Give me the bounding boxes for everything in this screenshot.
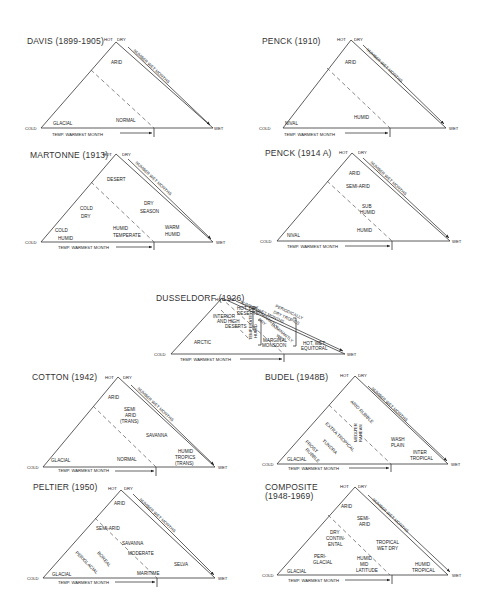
zone-label: SEMI <box>124 407 135 412</box>
label-cold: COLD <box>25 240 37 245</box>
zone-label: TROPICAL <box>410 456 433 461</box>
diagram-title: PENCK (1914 A) <box>265 148 332 158</box>
zone-label: WET DRY <box>377 546 398 551</box>
zone-label: SAVANNA <box>122 541 144 546</box>
x-axis-label: TEMP. WARMEST MONTH <box>58 580 109 585</box>
zone-label: INTER <box>413 450 427 455</box>
zone-label: ENTAL <box>328 542 343 547</box>
label-hot: HOT <box>339 150 348 155</box>
side-axis-label: NUMBER WET MONTHS <box>132 48 171 84</box>
zone-label: ARCTIC <box>194 340 212 345</box>
zone-label: LATITUDE <box>356 568 378 573</box>
label-wet: WET <box>347 352 357 357</box>
label-hot: HOT <box>340 373 349 378</box>
side-axis-label: NUMBER WET MONTHS <box>136 386 175 422</box>
side-axis-label: NUMBER WET MONTHS <box>134 160 173 196</box>
zone-label: ARID <box>111 60 123 65</box>
zone-label: ARID RUBBLE <box>349 399 374 424</box>
zone-label: ARID <box>108 395 120 400</box>
label-cold: COLD <box>27 576 39 581</box>
label-hot: HOT <box>108 486 117 491</box>
label-hot: HOT <box>103 152 112 157</box>
label-dry: DRY <box>228 297 237 302</box>
label-hot: HOT <box>340 484 349 489</box>
x-axis-label: TEMP. WARMEST MONTH <box>52 132 103 137</box>
label-cold: COLD <box>25 126 37 131</box>
zone-label: TROPICS <box>175 455 195 460</box>
label-wet: WET <box>449 126 459 131</box>
zone-label: DRY <box>330 530 340 535</box>
label-wet: WET <box>214 126 224 131</box>
arrow-icon <box>131 385 214 465</box>
x-axis-label: TEMP. WARMEST MONTH <box>284 132 335 137</box>
zone-label: SELVA <box>174 562 189 567</box>
diagram-martonne: MARTONNE (1913) HOT DRY COLD WET TEMP. W… <box>25 150 226 250</box>
label-dry: DRY <box>124 486 133 491</box>
diagram-title: COTTON (1942) <box>32 372 97 382</box>
diagram-dusseldorf: DUSSELDORF (1926) HOT DRY COLD WET TEMP.… <box>154 293 357 362</box>
zone-label: SAVANNA <box>146 433 168 438</box>
zone-label: DRY <box>81 214 91 219</box>
zone-label: WASH <box>391 437 405 442</box>
zone-label: COLD <box>55 228 68 233</box>
zone-label: SEMI- <box>357 516 370 521</box>
side-axis-label: NUMBER WET MONTHS <box>365 47 404 83</box>
label-dry: DRY <box>354 37 363 42</box>
zone-label: GLACIAL <box>51 458 71 463</box>
zone-label: RANEAN <box>358 425 363 442</box>
diagram-title: PENCK (1910) <box>262 36 321 46</box>
diagram-budel: BUDEL (1948B) HOT DRY COLD WET TEMP. WAR… <box>262 372 461 472</box>
zone-label: HUMID <box>58 236 74 241</box>
zone-label: HUMID <box>360 210 376 215</box>
zone-label: ARID <box>345 60 357 65</box>
label-dry: DRY <box>123 375 132 380</box>
diagram-subtitle: (1948-1969) <box>265 491 314 501</box>
zone-label: DESERTS <box>225 324 247 329</box>
diagram-title: PELTIER (1950) <box>33 482 98 492</box>
label-dry: DRY <box>358 150 367 155</box>
label-hot: HOT <box>215 297 224 302</box>
zone-label: MARITIME <box>137 571 159 576</box>
label-cold: COLD <box>154 352 166 357</box>
zone-label: PLAIN <box>391 443 404 448</box>
zone-label: MODERATE <box>128 551 154 556</box>
label-dry: DRY <box>358 373 367 378</box>
side-axis-label: NUMBER WET MONTHS <box>370 386 409 422</box>
zone-label: MONSOON <box>262 343 286 348</box>
zone-label: TROPICAL <box>376 540 399 545</box>
label-cold: COLD <box>262 573 274 578</box>
label-hot: HOT <box>337 37 346 42</box>
zone-label: GLACIAL <box>287 457 307 462</box>
label-wet: WET <box>452 239 462 244</box>
label-dry: DRY <box>117 37 126 42</box>
triangle-sides <box>41 42 213 128</box>
zone-label: DRY <box>144 201 154 206</box>
diagram-title: MARTONNE (1913) <box>30 150 108 160</box>
diagram-title: BUDEL (1948B) <box>265 372 328 382</box>
x-axis-label: TEMP. WARMEST MONTH <box>180 357 231 362</box>
x-axis-label: TEMP. WARMEST MONTH <box>58 245 109 250</box>
zone-label: (TRANS) <box>175 461 194 466</box>
zone-label: COLD <box>80 206 93 211</box>
zone-label: HUMID <box>415 562 431 567</box>
diagram-peltier: PELTIER (1950) HOT DRY COLD WET TEMP. WA… <box>27 482 228 587</box>
label-cold: COLD <box>27 465 39 470</box>
zone-label: SEMI-ARID <box>346 184 370 189</box>
diagram-davis: DAVIS (1899-1905) HOT DRY COLD WET TEMP.… <box>25 36 224 137</box>
zone-label: PERIGLACIAL <box>74 550 99 575</box>
zone-label: WARM <box>165 225 180 230</box>
zone-label: HUMID <box>253 324 258 338</box>
zone-label: PERI- <box>314 554 327 559</box>
climate-triangle-diagrams: DAVIS (1899-1905) HOT DRY COLD WET TEMP.… <box>0 0 485 610</box>
zone-label: NORMAL <box>117 457 137 462</box>
zone-label: ARID <box>125 413 137 418</box>
zone-label: GLACIAL <box>313 560 333 565</box>
zone-label: DESERT <box>107 177 126 182</box>
label-hot: HOT <box>104 37 113 42</box>
x-axis-label: TEMP. WARMEST MONTH <box>58 468 109 473</box>
label-cold: COLD <box>259 126 271 131</box>
zone-label: GLACIAL <box>52 572 72 577</box>
label-cold: COLD <box>262 462 274 467</box>
label-wet: WET <box>218 465 228 470</box>
label-wet: WET <box>216 240 226 245</box>
